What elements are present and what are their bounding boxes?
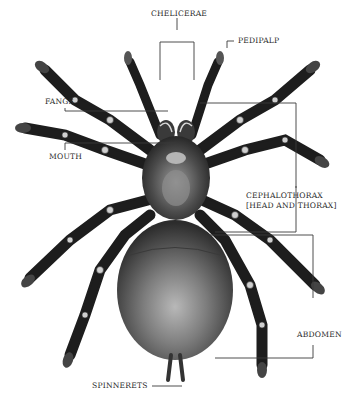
label-mouth: MOUTH: [49, 152, 82, 161]
pedipalp-right: [192, 51, 224, 135]
sternum: [162, 170, 190, 206]
label-cephalothorax-sub: [HEAD AND THORAX]: [246, 201, 337, 210]
label-fangs: FANGS: [45, 97, 74, 106]
label-pedipalp: PEDIPALP: [238, 36, 279, 45]
label-abdomen: ABDOMEN: [297, 330, 342, 339]
leg-right-2: [202, 137, 331, 170]
leader-pedipalp: [227, 41, 234, 48]
leader-cephalothorax-top: [200, 103, 296, 232]
illustration: [0, 0, 355, 400]
label-cephalothorax: CEPHALOTHORAX: [246, 191, 323, 200]
label-spinnerets: SPINNERETS: [92, 381, 148, 390]
mouth-part: [166, 152, 186, 164]
tarantula-diagram: CHELICERAE PEDIPALP FANGS MOUTH CEPHALOT…: [0, 0, 355, 400]
pedipalp-left: [124, 51, 160, 135]
label-chelicerae: CHELICERAE: [151, 9, 207, 18]
leader-chelicerae-bracket: [160, 42, 194, 80]
abdomen: [117, 220, 233, 360]
